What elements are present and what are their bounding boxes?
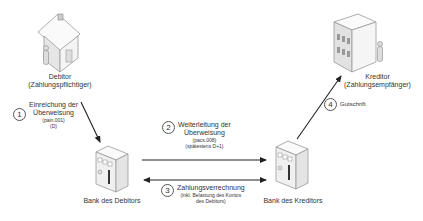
debitor-name: Debitor <box>20 73 100 81</box>
step-2-title-line2: Überweisung <box>178 129 231 137</box>
step-1-text: Einreichung der Überweisung (pain.001) (… <box>29 101 78 129</box>
bank-kreditor-label: Bank des Kreditors <box>253 197 333 205</box>
step-3-number-badge: 3 <box>161 184 174 197</box>
step-3-detail-line2: des Debitors) <box>177 198 245 204</box>
debitor-role: (Zahlungspflichtiger) <box>20 81 100 89</box>
bank-debitor-label: Bank des Debitors <box>72 197 152 205</box>
kreditor-name: Kreditor <box>335 73 420 81</box>
step-2: 2 Weiterleitung der Überweisung (pacs.00… <box>162 121 231 149</box>
step-4-title: Gutschrift <box>340 98 366 110</box>
bank-icon-kreditor <box>276 141 308 189</box>
step-1: 1 Einreichung der Überweisung (pain.001)… <box>13 101 78 129</box>
step-3-text: Zahlungsverrechnung (inkl. Belastung des… <box>177 184 245 204</box>
house-icon <box>38 14 80 72</box>
step-1-number-badge: 1 <box>13 108 26 121</box>
step-1-detail-line2: (D) <box>29 123 78 129</box>
step-2-number-badge: 2 <box>162 121 175 134</box>
step-1-title-line2: Überweisung <box>29 109 78 117</box>
step-4-number-badge: 4 <box>324 98 337 111</box>
step-2-title-line1: Weiterleitung der <box>178 121 231 129</box>
kreditor-label: Kreditor (Zahlungsempfänger) <box>335 73 420 89</box>
bank-icon-debitor <box>96 146 128 192</box>
office-building-icon <box>334 14 383 72</box>
step-2-text: Weiterleitung der Überweisung (pacs.008)… <box>178 121 231 149</box>
step-1-title-line1: Einreichung der <box>29 101 78 109</box>
step-4: 4 Gutschrift <box>324 98 366 111</box>
step-3: 3 Zahlungsverrechnung (inkl. Belastung d… <box>161 184 245 204</box>
step-2-detail-line2: (spätestens D+1) <box>178 143 231 149</box>
kreditor-role: (Zahlungsempfänger) <box>335 81 420 89</box>
step-3-title: Zahlungsverrechnung <box>177 184 245 192</box>
arrow-step-1 <box>81 102 100 142</box>
debitor-label: Debitor (Zahlungspflichtiger) <box>20 73 100 89</box>
